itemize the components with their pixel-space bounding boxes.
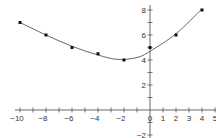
y-tick-label: 4 <box>142 56 147 65</box>
y-tick-label: −2 <box>137 131 147 138</box>
chart: −10−8−6−4−2012345−22468 <box>0 0 216 138</box>
x-tick-label: −4 <box>90 114 100 123</box>
x-tick-label: 0 <box>148 114 153 123</box>
data-point <box>19 21 22 24</box>
data-point <box>97 52 100 55</box>
y-tick-label: 8 <box>142 6 147 15</box>
x-tick-label: −8 <box>38 114 48 123</box>
x-tick-label: −10 <box>10 114 24 123</box>
y-tick-label: 6 <box>142 31 147 40</box>
data-point <box>149 46 152 49</box>
x-tick-label: 3 <box>187 114 192 123</box>
data-point <box>45 34 48 37</box>
data-point <box>71 46 74 49</box>
x-tick-label: −2 <box>116 114 126 123</box>
y-tick-label: 2 <box>142 81 147 90</box>
data-point <box>175 34 178 37</box>
x-tick-label: 2 <box>174 114 179 123</box>
x-tick-label: 4 <box>200 114 205 123</box>
x-tick-label: 5 <box>213 114 216 123</box>
x-tick-label: 1 <box>161 114 166 123</box>
x-tick-label: −6 <box>64 114 74 123</box>
data-point <box>123 59 126 62</box>
data-point <box>201 9 204 12</box>
data-points <box>19 9 204 62</box>
